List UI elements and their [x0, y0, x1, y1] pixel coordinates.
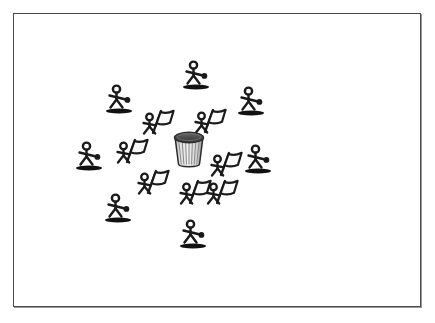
figure-e[interactable]	[244, 144, 272, 174]
flag-w[interactable]	[116, 137, 148, 163]
figure-ne[interactable]	[237, 86, 265, 116]
figure-n[interactable]	[182, 60, 210, 90]
flag-e[interactable]	[210, 150, 242, 176]
flag-ne[interactable]	[194, 107, 226, 133]
figure-sw[interactable]	[104, 193, 132, 223]
screenshot-root	[0, 0, 435, 323]
drum[interactable]	[175, 132, 204, 166]
flag-nw[interactable]	[142, 108, 174, 134]
flag-s2[interactable]	[206, 178, 238, 204]
figure-s[interactable]	[179, 219, 207, 249]
figure-w[interactable]	[75, 141, 103, 171]
figure-nw[interactable]	[105, 84, 133, 114]
flag-sw[interactable]	[137, 168, 169, 194]
